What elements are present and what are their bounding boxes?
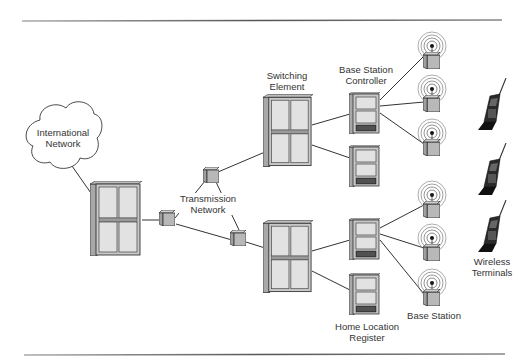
base-station-label: Base Station (407, 310, 461, 321)
switching-element-top (263, 94, 313, 166)
switching-element-bottom (263, 220, 313, 292)
base-station-4 (418, 181, 446, 218)
wireless-terminals-label: Wireless Terminals (472, 256, 513, 278)
home-location-register-label: Home Location Register (335, 321, 399, 343)
transmission-node-left (159, 210, 175, 226)
base-station-2 (418, 75, 446, 112)
base-station-1 (418, 32, 446, 69)
base-station-3 (418, 119, 446, 156)
wireless-terminal-phone-icon-2 (478, 143, 506, 195)
transmission-network-label: Transmission Network (179, 193, 237, 215)
wireless-terminal-phone-icon-3 (478, 200, 506, 252)
bottom-rule (24, 354, 505, 355)
base-station-controller-top (349, 92, 380, 134)
switching-element-label: Switching Element (267, 70, 308, 92)
base-station-controller-label: Base Station Controller (339, 64, 393, 86)
base-station-controller-bottom (349, 218, 380, 260)
central-switch-cabinet (90, 181, 142, 256)
wireless-terminal-phone-icon-1 (478, 78, 506, 130)
home-location-register (349, 273, 380, 315)
base-station-controller-mid (349, 145, 380, 187)
base-station-6 (418, 269, 446, 306)
international-network-label: International Network (37, 127, 89, 149)
base-station-5 (418, 224, 446, 261)
transmission-node-right (230, 230, 246, 246)
top-rule (22, 20, 502, 21)
transmission-node-top (203, 167, 219, 183)
